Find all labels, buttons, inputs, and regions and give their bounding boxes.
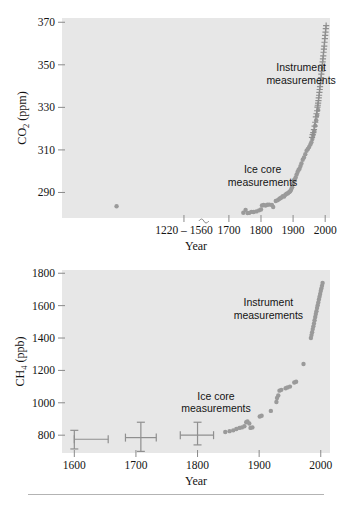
co2-y-tick-label-310: 310 <box>38 144 56 156</box>
data-point-dot <box>294 380 298 384</box>
annotation-line: measurements <box>234 309 303 321</box>
ch4-x-tick-label-3: 1900 <box>248 459 271 471</box>
figure-container: 2903103303503701220 – 156017001800190020… <box>0 0 352 510</box>
co2-x-tick-label-2: 1800 <box>249 224 272 236</box>
co2-y-axis-title-text: CO2 (ppm) <box>15 91 31 144</box>
ch4-y-axis-title-text: CH4 (ppb) <box>13 337 29 387</box>
co2-y-tick-label-290: 290 <box>38 186 56 198</box>
data-point-dot <box>247 421 251 425</box>
data-point-dot <box>288 384 292 388</box>
ch4-y-axis-unit: (ppb) <box>13 337 27 366</box>
data-point-dot <box>227 429 231 433</box>
data-point-dot <box>301 362 305 366</box>
co2-annotation-1: Instrumentmeasurements <box>266 61 335 86</box>
co2-x-tick-label-4: 2000 <box>314 224 337 236</box>
data-point-dot <box>276 393 280 397</box>
co2-y-axis-title: CO2 (ppm) <box>15 91 31 144</box>
data-point-dot <box>274 400 278 404</box>
ch4-y-tick-label-1200: 1200 <box>32 364 55 376</box>
ch4-x-tick-label-0: 1600 <box>63 459 86 471</box>
ch4-x-tick-label-1: 1700 <box>124 459 147 471</box>
data-point-dot <box>223 430 227 434</box>
footer-divider-rule <box>28 494 324 495</box>
ch4-annotation-1: Instrumentmeasurements <box>234 296 303 321</box>
annotation-line: measurements <box>228 176 297 188</box>
data-point-dot <box>320 281 324 285</box>
co2-x-tick-label-1: 1700 <box>217 224 240 236</box>
annotation-line: Ice core <box>244 163 282 175</box>
annotation-line: Instrument <box>276 61 326 73</box>
co2-axis-break-icon <box>199 219 209 223</box>
co2-x-tick-label-0: 1220 – 1560 <box>155 224 213 236</box>
ch4-x-tick-label-2: 1800 <box>186 459 209 471</box>
annotation-line: measurements <box>266 74 335 86</box>
co2-y-tick-label-370: 370 <box>38 16 56 28</box>
annotation-line: Instrument <box>244 296 294 308</box>
co2-y-tick-label-350: 350 <box>38 59 56 71</box>
co2-y-tick-label-330: 330 <box>38 101 56 113</box>
data-point-dot <box>269 409 273 413</box>
ch4-y-tick-label-1400: 1400 <box>32 332 55 344</box>
data-point-dot <box>259 414 263 418</box>
data-point-dot <box>299 161 303 165</box>
chart-panel-co2: 2903103303503701220 – 156017001800190020… <box>0 0 352 258</box>
ch4-y-tick-label-1000: 1000 <box>32 397 55 409</box>
ch4-x-tick-label-4: 2000 <box>309 459 332 471</box>
data-point-dot <box>114 204 118 208</box>
data-point-dot <box>259 207 263 211</box>
co2-x-tick-label-3: 1900 <box>282 224 305 236</box>
ch4-x-axis-title: Year <box>185 474 207 488</box>
annotation-line: measurements <box>181 402 250 414</box>
ch4-y-tick-label-800: 800 <box>38 429 56 441</box>
ch4-y-tick-label-1800: 1800 <box>32 267 55 279</box>
ch4-y-axis-title: CH4 (ppb) <box>13 337 29 387</box>
co2-plot-svg: 2903103303503701220 – 156017001800190020… <box>0 0 352 258</box>
co2-y-axis-unit: (ppm) <box>15 91 29 123</box>
co2-x-axis-title: Year <box>185 239 207 253</box>
ch4-plot-svg: 8001000120014001600180016001700180019002… <box>0 258 352 488</box>
data-point-dot <box>271 205 275 209</box>
data-point-dot <box>279 388 283 392</box>
data-point-dot <box>250 425 254 429</box>
ch4-y-tick-label-1600: 1600 <box>32 300 55 312</box>
data-point-dot <box>242 424 246 428</box>
annotation-line: Ice core <box>197 390 235 402</box>
chart-panel-ch4: 8001000120014001600180016001700180019002… <box>0 258 352 488</box>
